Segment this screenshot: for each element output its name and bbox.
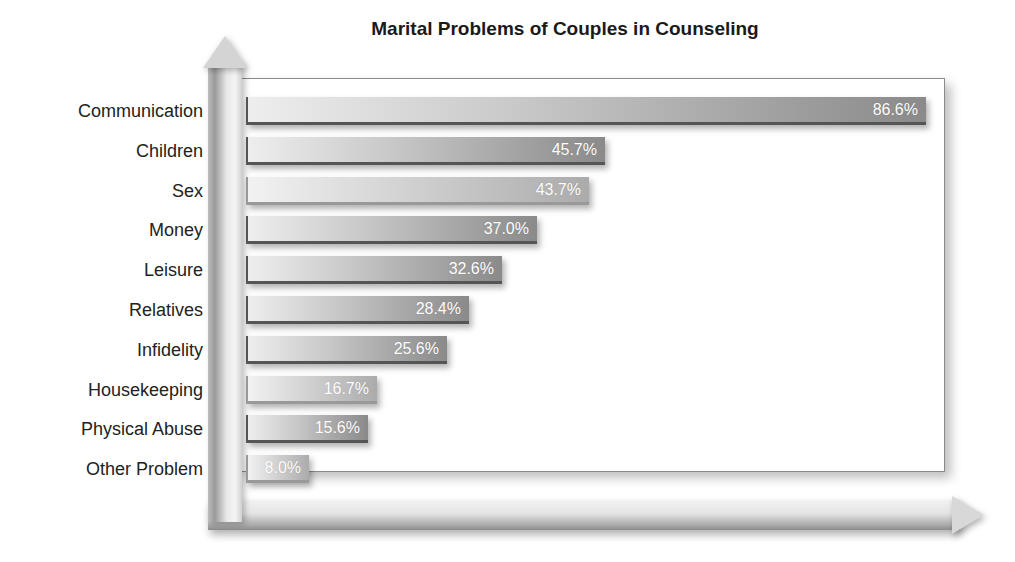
category-label: Sex — [172, 177, 203, 205]
bar-leisure: 32.6% — [246, 256, 502, 284]
y-axis-arrow-icon — [203, 36, 247, 68]
x-axis-arrow-icon — [952, 496, 984, 534]
bar-infidelity: 25.6% — [246, 336, 447, 364]
category-label: Physical Abuse — [81, 415, 203, 443]
bar-money: 37.0% — [246, 216, 537, 244]
bar-value-label: 45.7% — [552, 137, 597, 163]
bar-value-label: 28.4% — [416, 296, 461, 322]
bar-communication: 86.6% — [246, 97, 926, 125]
bar-physical-abuse: 15.6% — [246, 415, 368, 443]
bar-value-label: 86.6% — [873, 97, 918, 123]
category-label: Other Problem — [86, 455, 203, 483]
bar-value-label: 16.7% — [324, 376, 369, 402]
y-axis-arrow-shaft — [208, 64, 242, 522]
category-label: Housekeeping — [88, 376, 203, 404]
bar-value-label: 8.0% — [265, 455, 301, 481]
category-label: Children — [136, 137, 203, 165]
x-axis-arrow-shaft — [208, 500, 960, 530]
bar-other-problem: 8.0% — [246, 455, 309, 483]
category-label: Infidelity — [137, 336, 203, 364]
category-label: Money — [149, 216, 203, 244]
category-label: Leisure — [144, 256, 203, 284]
bar-sex: 43.7% — [246, 177, 589, 205]
bar-children: 45.7% — [246, 137, 605, 165]
category-label: Relatives — [129, 296, 203, 324]
bar-relatives: 28.4% — [246, 296, 469, 324]
bar-value-label: 32.6% — [449, 256, 494, 282]
bar-value-label: 37.0% — [484, 216, 529, 242]
bar-value-label: 43.7% — [536, 177, 581, 203]
chart-title: Marital Problems of Couples in Counselin… — [265, 18, 865, 40]
bar-value-label: 15.6% — [315, 415, 360, 441]
bar-housekeeping: 16.7% — [246, 376, 377, 404]
category-label: Communication — [78, 97, 203, 125]
bar-value-label: 25.6% — [394, 336, 439, 362]
